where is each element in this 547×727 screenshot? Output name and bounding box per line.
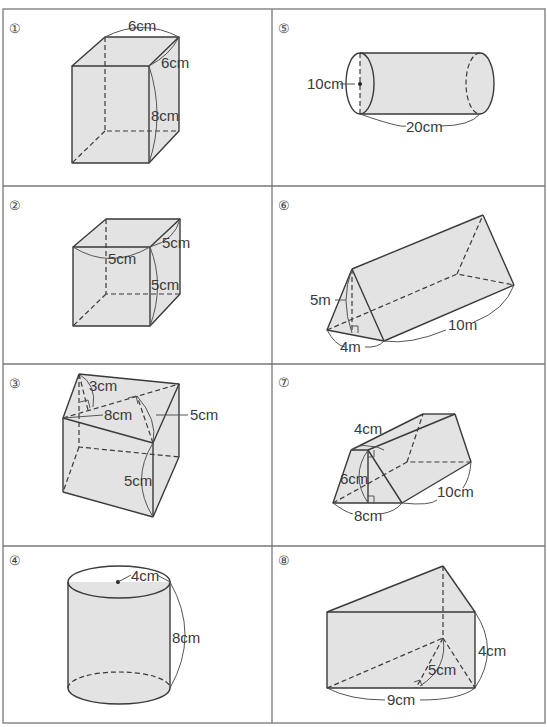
label-diameter: 10cm [307, 75, 344, 92]
problem-4: ④ 4cm 8cm [9, 553, 200, 704]
problem-number: ③ [9, 376, 21, 391]
label-top: 4cm [354, 420, 382, 437]
label-triangle-height: 3cm [89, 377, 117, 394]
problem-number: ② [9, 198, 21, 213]
problem-1: ① 6cm 6cm 8cm [9, 17, 189, 163]
label-prism-height: 5cm [124, 472, 152, 489]
label-bottom: 8cm [354, 507, 382, 524]
label-triangle-height: 5cm [428, 661, 456, 678]
label-top-width: 6cm [128, 17, 156, 34]
label-length: 10m [448, 316, 477, 333]
label-depth: 5cm [162, 234, 190, 251]
label-triangle-height: 5m [310, 291, 331, 308]
label-height: 8cm [172, 629, 200, 646]
label-height: 6cm [340, 470, 368, 487]
problem-8: ⑧ 5cm 4cm 9cm [278, 553, 506, 708]
problem-number: ⑥ [278, 198, 290, 213]
problem-3: ③ 3cm 8cm 5cm 5cm [9, 374, 218, 517]
problem-number: ⑤ [278, 21, 290, 36]
label-side: 5cm [190, 406, 218, 423]
problem-7: ⑦ 4cm 6cm 8cm 10cm [278, 375, 474, 524]
label-prism-height: 4cm [478, 642, 506, 659]
problem-5: ⑤ 10cm 20cm [278, 21, 494, 135]
problem-number: ④ [9, 553, 21, 568]
label-height: 8cm [151, 107, 179, 124]
problem-number: ⑧ [278, 553, 290, 568]
label-triangle-base: 8cm [104, 406, 132, 423]
problem-2: ② 5cm 5cm 5cm [9, 198, 190, 326]
problem-number: ⑦ [278, 375, 290, 390]
problem-6: ⑥ 5m 4m 10m [278, 198, 514, 355]
label-depth: 6cm [161, 54, 189, 71]
problem-number: ① [9, 21, 21, 36]
label-triangle-base: 4m [340, 338, 361, 355]
label-base: 9cm [387, 691, 415, 708]
label-radius: 4cm [131, 567, 159, 584]
label-width: 5cm [108, 250, 136, 267]
label-length: 10cm [437, 483, 474, 500]
worksheet-grid: ① 6cm 6cm 8cm ② 5cm 5cm 5cm ③ [0, 0, 547, 727]
label-length: 20cm [406, 118, 443, 135]
label-height: 5cm [151, 276, 179, 293]
